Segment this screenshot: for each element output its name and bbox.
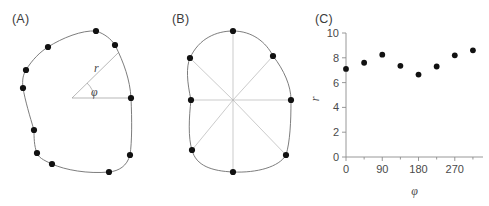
panel-a-vertex (20, 85, 26, 91)
scatter-point (343, 66, 349, 72)
panel-a-vertex (23, 67, 29, 73)
panel-b: (B) (160, 0, 305, 206)
scatter-point (470, 47, 476, 53)
panel-b-vertex (283, 152, 289, 158)
x-axis-tick-label: 180 (409, 163, 427, 175)
figure-root: (A) r φ (B) (0, 0, 489, 206)
panel-a-vertex (93, 28, 99, 34)
scatter-point (434, 64, 440, 70)
panel-a-label: (A) (12, 12, 29, 26)
scatter-point (397, 63, 403, 69)
panel-a-vertex (49, 161, 55, 167)
scatter-point (416, 72, 422, 78)
panel-b-vertex (188, 97, 194, 103)
panel-b-diagram (160, 0, 305, 206)
panel-a-vertex (112, 42, 118, 48)
scatter-point (452, 52, 458, 58)
panel-b-spoke-315 (233, 100, 286, 155)
y-axis-title: r (308, 96, 322, 101)
panel-a-vertex (45, 44, 51, 50)
panel-b-spoke-225 (192, 100, 233, 150)
panel-c: (C) 0246810090180270rφ (305, 0, 489, 206)
panel-a: (A) r φ (0, 0, 160, 206)
panel-b-outline (187, 31, 291, 172)
panel-b-vertex (288, 97, 294, 103)
y-axis-tick-label: 0 (333, 151, 339, 163)
panel-c-scatter-plot: 0246810090180270rφ (305, 0, 489, 206)
x-axis-tick-label: 90 (376, 163, 388, 175)
panel-b-spoke-45 (233, 56, 273, 100)
panel-b-vertex (270, 53, 276, 59)
y-axis-tick-label: 8 (333, 52, 339, 64)
y-axis-tick-label: 4 (333, 101, 339, 113)
panel-a-vertex (34, 150, 40, 156)
y-axis-tick-label: 6 (333, 77, 339, 89)
panel-b-vertex (189, 147, 195, 153)
panel-b-spoke-135 (190, 58, 233, 100)
panel-a-radius-label: r (94, 61, 99, 75)
panel-a-vertex (106, 169, 112, 175)
panel-a-angle-label: φ (91, 85, 98, 99)
panel-b-vertex (230, 28, 236, 34)
scatter-point (361, 60, 367, 66)
panel-a-vertex (127, 152, 133, 158)
x-axis-title: φ (411, 184, 418, 198)
y-axis-tick-label: 10 (327, 27, 339, 39)
x-axis-tick-label: 0 (343, 163, 349, 175)
panel-a-vertex (128, 95, 134, 101)
panel-a-vertex (31, 127, 37, 133)
panel-a-diagram: r φ (0, 0, 160, 206)
panel-b-label: (B) (172, 12, 189, 26)
panel-c-label: (C) (315, 12, 333, 26)
y-axis-tick-label: 2 (333, 126, 339, 138)
panel-b-vertex (187, 55, 193, 61)
scatter-point (379, 52, 385, 58)
x-axis-tick-label: 270 (446, 163, 464, 175)
panel-b-vertex (230, 169, 236, 175)
